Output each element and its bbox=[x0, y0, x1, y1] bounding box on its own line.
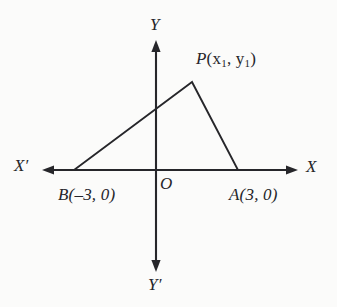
y-axis-bottom-arrowhead bbox=[151, 260, 160, 272]
x-axis-right-arrowhead bbox=[286, 165, 298, 174]
point-p-comma: , bbox=[227, 49, 236, 68]
point-label-b: B(–3, 0) bbox=[58, 186, 115, 203]
point-p-name: P bbox=[196, 49, 207, 68]
y-axis bbox=[151, 40, 160, 272]
point-label-a: A(3, 0) bbox=[229, 186, 278, 203]
axis-label-y-positive: Y bbox=[150, 16, 160, 33]
axis-label-x-positive: X bbox=[306, 158, 317, 175]
point-p-y-subscript: 1 bbox=[244, 57, 250, 69]
y-axis-top-arrowhead bbox=[151, 40, 160, 52]
point-p-close-paren: ) bbox=[250, 49, 256, 68]
point-p-x-variable: x bbox=[212, 49, 221, 68]
axis-label-y-negative: Y′ bbox=[148, 276, 162, 293]
point-p-x-subscript: 1 bbox=[221, 57, 227, 69]
point-label-p: P(x1, y1) bbox=[196, 50, 256, 67]
origin-label: O bbox=[160, 175, 172, 192]
axes-and-triangle-canvas bbox=[0, 0, 337, 307]
axis-label-x-negative: X′ bbox=[14, 157, 29, 174]
coordinate-geometry-figure: Y Y′ X X′ O P(x1, y1) B(–3, 0) A(3, 0) bbox=[0, 0, 337, 307]
x-axis-left-arrowhead bbox=[42, 165, 54, 174]
